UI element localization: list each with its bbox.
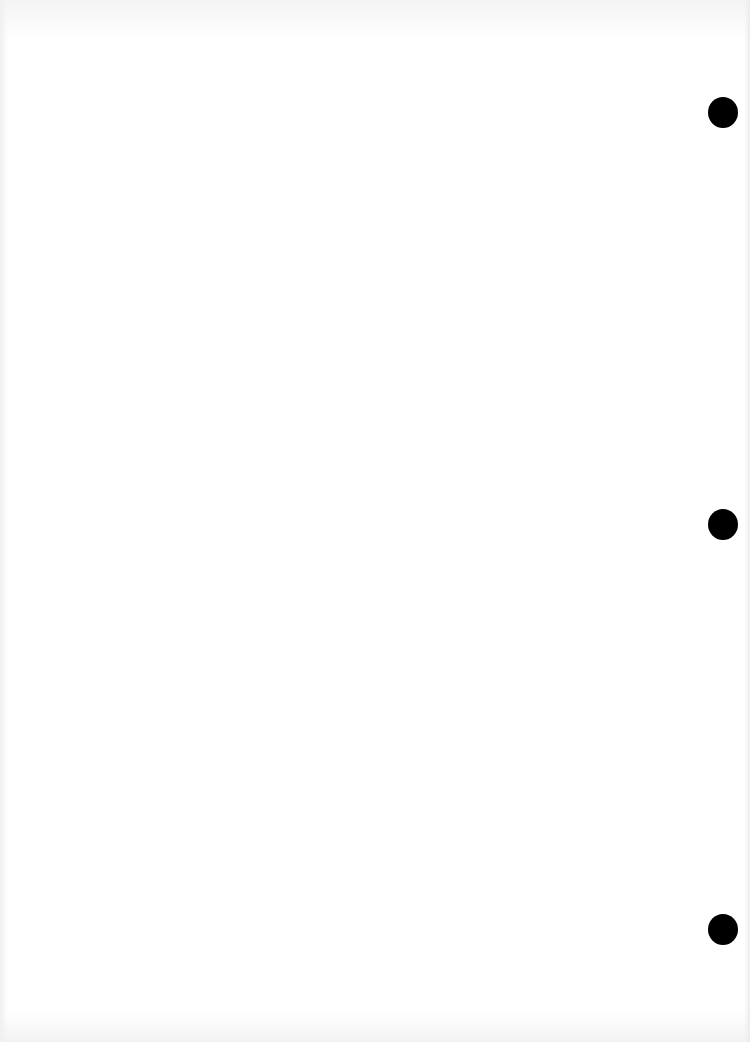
punch-hole-bottom — [708, 914, 738, 945]
punch-hole-middle — [708, 509, 738, 540]
scan-edge-shading-top — [0, 0, 750, 40]
blank-scanned-page — [0, 0, 750, 1042]
scan-edge-shading-right — [744, 0, 750, 1042]
scan-edge-shading-bottom — [0, 1012, 750, 1042]
scan-edge-shading-left — [0, 0, 8, 1042]
punch-hole-top — [708, 97, 738, 128]
